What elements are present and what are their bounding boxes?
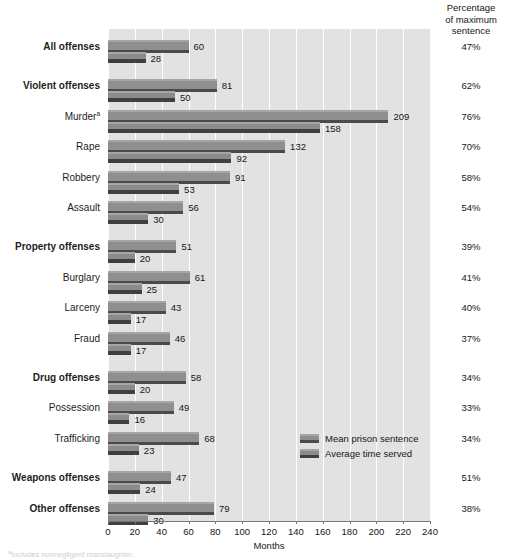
percent-of-maximum-sentence: 76% [437,111,505,122]
percent-of-maximum-sentence: 47% [437,41,505,52]
category-label-larceny: Larceny [0,302,100,313]
category-label-rape: Rape [0,141,100,152]
x-tick-140 [296,521,297,524]
category-label-text: Assault [67,202,100,213]
x-tick-240 [430,521,431,524]
category-label-other-offenses: Other offenses [0,503,100,514]
gridline-140 [296,29,297,521]
category-label-burglary: Burglary [0,272,100,283]
x-tick-20 [135,521,136,524]
percent-of-maximum-sentence: 70% [437,141,505,152]
percent-of-maximum-sentence: 54% [437,202,505,213]
category-label-text: All offenses [43,41,100,52]
bar-average-time-served [108,252,135,263]
value-label-mean: 61 [195,272,206,283]
category-label-text: Violent offenses [23,80,100,91]
percent-of-maximum-sentence: 39% [437,241,505,252]
x-tick-160 [323,521,324,524]
bar-average-time-served [108,52,146,63]
footnote: aIncludes nonnegligent manslaughter. [8,550,134,559]
x-tick-label-240: 240 [410,526,450,537]
x-tick-0 [108,521,109,524]
category-label-text: Trafficking [54,433,100,444]
value-label-mean: 81 [222,80,233,91]
value-label-served: 20 [140,384,151,395]
value-label-served: 28 [151,53,162,64]
category-label-superscript: a [96,109,100,116]
bar-average-time-served [108,152,231,163]
bar-average-time-served [108,122,320,133]
percentage-column-header: Percentage of maximum sentence [437,2,505,37]
value-label-served: 16 [134,414,145,425]
category-label-murder: Murdera [0,111,100,122]
x-tick-80 [215,521,216,524]
bar-average-time-served [108,413,129,424]
chart-legend: Mean prison sentence Average time served [300,431,418,461]
category-label-text: Murder [65,111,97,122]
category-label-text: Possession [49,402,100,413]
value-label-served: 50 [180,92,191,103]
value-label-served: 23 [144,445,155,456]
percent-of-maximum-sentence: 37% [437,333,505,344]
value-label-served: 20 [140,253,151,264]
legend-label-mean: Mean prison sentence [325,433,418,444]
pct-header-line-1: Percentage [437,2,505,14]
category-label-text: Weapons offenses [12,472,100,483]
bar-average-time-served [108,213,148,224]
bar-average-time-served [108,444,139,455]
value-label-mean: 132 [290,141,306,152]
x-axis-title: Months [108,540,430,551]
value-label-served: 92 [236,153,247,164]
value-label-served: 17 [136,314,147,325]
category-label-text: Rape [76,141,100,152]
category-label-all-offenses: All offenses [0,41,100,52]
value-label-served: 30 [153,214,164,225]
value-label-mean: 49 [179,402,190,413]
x-tick-180 [350,521,351,524]
value-label-mean: 68 [204,433,215,444]
value-label-served: 53 [184,184,195,195]
category-label-text: Burglary [63,272,100,283]
category-label-fraud: Fraud [0,333,100,344]
value-label-mean: 91 [235,172,246,183]
x-tick-100 [242,521,243,524]
category-label-possession: Possession [0,402,100,413]
value-label-served: 24 [145,484,156,495]
category-label-assault: Assault [0,202,100,213]
category-label-weapons-offenses: Weapons offenses [0,472,100,483]
percent-of-maximum-sentence: 58% [437,172,505,183]
percent-of-maximum-sentence: 62% [437,80,505,91]
legend-item-mean: Mean prison sentence [300,431,418,446]
percent-of-maximum-sentence: 38% [437,503,505,514]
percent-of-maximum-sentence: 34% [437,372,505,383]
bar-average-time-served [108,183,179,194]
gridline-80 [215,29,216,521]
bar-average-time-served [108,313,131,324]
percent-of-maximum-sentence: 33% [437,402,505,413]
value-label-mean: 58 [191,372,202,383]
x-tick-200 [376,521,377,524]
category-label-property-offenses: Property offenses [0,241,100,252]
bar-average-time-served [108,91,175,102]
legend-item-served: Average time served [300,446,418,461]
gridline-120 [269,29,270,521]
bar-average-time-served [108,383,135,394]
value-label-mean: 60 [194,41,205,52]
value-label-mean: 46 [175,333,186,344]
category-label-text: Larceny [64,302,100,313]
pct-header-line-3: sentence [437,25,505,37]
value-label-served: 158 [325,123,341,134]
bar-average-time-served [108,283,142,294]
x-tick-40 [162,521,163,524]
bar-average-time-served [108,514,148,525]
category-label-text: Other offenses [29,503,100,514]
gridline-100 [242,29,243,521]
x-tick-60 [189,521,190,524]
category-label-text: Robbery [62,172,100,183]
value-label-mean: 51 [181,241,192,252]
value-label-mean: 209 [393,111,409,122]
bar-average-time-served [108,483,140,494]
percent-of-maximum-sentence: 51% [437,472,505,483]
legend-swatch-served-icon [300,449,319,458]
value-label-served: 25 [147,284,158,295]
